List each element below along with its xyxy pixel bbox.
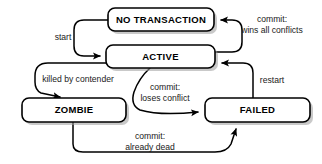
edge-commit-loses-label-line1: commit: (150, 82, 180, 92)
edge-start-label: start (55, 32, 72, 42)
edge-layer: start commit: wins all conflicts killed … (35, 14, 303, 152)
edge-killed-by-contender-label: killed by contender (42, 74, 114, 84)
state-diagram: start commit: wins all conflicts killed … (0, 0, 322, 164)
node-zombie-label: ZOMBIE (55, 104, 94, 115)
node-active[interactable]: ACTIVE (106, 45, 218, 71)
edge-commit-already-dead-label-line1: commit: (135, 131, 165, 141)
edge-commit-loses: commit: loses conflict (133, 68, 198, 114)
edge-restart-path (222, 63, 253, 98)
node-failed[interactable]: FAILED (205, 98, 313, 125)
edge-killed-by-contender: killed by contender (35, 63, 114, 97)
edge-commit-already-dead: commit: already dead (73, 122, 236, 152)
edge-start-path (74, 20, 108, 56)
edge-start: start (55, 20, 108, 56)
edge-commit-wins-path (215, 20, 242, 52)
edge-commit-loses-label-line2: loses conflict (140, 93, 190, 103)
node-active-label: ACTIVE (142, 51, 179, 62)
edge-commit-wins-label-line2: wins all conflicts (240, 25, 303, 35)
node-zombie[interactable]: ZOMBIE (22, 98, 129, 125)
node-no-transaction-label: NO TRANSACTION (116, 14, 206, 25)
node-no-transaction[interactable]: NO TRANSACTION (108, 8, 217, 34)
edge-restart: restart (222, 63, 285, 98)
node-failed-label: FAILED (240, 104, 276, 115)
edge-commit-already-dead-label-line2: already dead (125, 142, 175, 152)
edge-commit-wins-label-line1: commit: (257, 14, 287, 24)
diagram-canvas: start commit: wins all conflicts killed … (0, 0, 322, 164)
edge-restart-label: restart (260, 75, 285, 85)
edge-commit-wins: commit: wins all conflicts (215, 14, 303, 52)
